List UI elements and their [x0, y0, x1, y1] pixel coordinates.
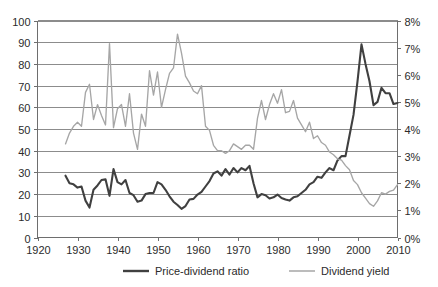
left-axis-tick-label: 20 [18, 189, 30, 201]
legend-label: Price-dividend ratio [155, 265, 249, 277]
chart-container: 0102030405060708090100 0%1%2%3%4%5%6%7%8… [0, 0, 438, 287]
left-axis-tick-label: 40 [18, 146, 30, 158]
left-axis-tick-label: 30 [18, 167, 30, 179]
left-axis-tick-label: 60 [18, 102, 30, 114]
right-axis-tick-label: 5% [405, 97, 421, 109]
x-axis-tick-label: 1930 [66, 244, 90, 256]
price-dividend-ratio-line [66, 44, 398, 208]
x-axis-tick-label: 1920 [26, 244, 50, 256]
gridlines-group [38, 22, 398, 217]
left-axis-tick-label: 70 [18, 81, 30, 93]
right-axis-tick-label: 6% [405, 70, 421, 82]
right-axis-tick-label: 1% [405, 205, 421, 217]
dual-axis-line-chart: 0102030405060708090100 0%1%2%3%4%5%6%7%8… [0, 0, 438, 287]
left-axis-tick-label: 80 [18, 59, 30, 71]
left-axis-tick-label: 10 [18, 211, 30, 223]
left-axis-tick-labels: 0102030405060708090100 [12, 16, 30, 245]
right-axis-tick-label: 7% [405, 43, 421, 55]
legend-label: Dividend yield [321, 265, 389, 277]
x-axis-tick-label: 2000 [346, 244, 370, 256]
left-axis-tick-label: 90 [18, 37, 30, 49]
series-dividend-yield [66, 34, 398, 206]
x-axis-tick-label: 1940 [106, 244, 130, 256]
left-axis-tick-label: 100 [12, 16, 30, 28]
right-axis-tick-label: 4% [405, 124, 421, 136]
left-axis-tick-label: 50 [18, 124, 30, 136]
dividend-yield-line [66, 34, 398, 206]
right-axis-tick-label: 2% [405, 178, 421, 190]
right-axis-ticks [398, 22, 402, 239]
x-axis-tick-label: 2010 [386, 244, 410, 256]
x-axis-tick-label: 1970 [226, 244, 250, 256]
x-axis-tick-label: 1960 [186, 244, 210, 256]
left-axis-ticks [34, 22, 38, 239]
series-price-dividend-ratio [66, 44, 398, 208]
right-axis-tick-label: 8% [405, 16, 421, 28]
chart-legend: Price-dividend ratioDividend yield [123, 265, 389, 277]
x-axis-tick-labels: 1920193019401950196019701980199020002010 [26, 244, 410, 256]
x-axis-tick-label: 1990 [306, 244, 330, 256]
right-axis-tick-labels: 0%1%2%3%4%5%6%7%8% [405, 16, 421, 245]
x-axis-ticks [39, 238, 399, 242]
x-axis-tick-label: 1950 [146, 244, 170, 256]
right-axis-tick-label: 3% [405, 151, 421, 163]
x-axis-tick-label: 1980 [266, 244, 290, 256]
